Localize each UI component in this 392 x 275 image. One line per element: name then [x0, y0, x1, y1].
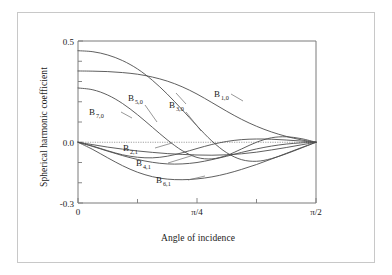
svg-text:B: B [169, 100, 175, 110]
curve-label-b50: B 5,0 [128, 93, 143, 105]
x-axis-ticks [78, 198, 316, 203]
svg-text:B: B [89, 107, 95, 117]
y-axis-ticks [78, 41, 83, 203]
x-tick-label-left: 0 [76, 207, 81, 217]
y-axis-title: Spherical harmonic coefficient [39, 47, 49, 207]
y-tick-label-bottom: -0.3 [60, 199, 75, 209]
y-tick-label-zero: 0.0 [63, 138, 75, 148]
figure-container: 0.5 0.0 -0.3 0 π/4 π/2 [0, 0, 392, 275]
curve-label-b21: B 2,1 [123, 143, 138, 155]
svg-text:B: B [214, 89, 220, 99]
svg-text:2,1: 2,1 [130, 148, 138, 155]
curve-label-b41: B 4,1 [136, 158, 151, 170]
svg-text:B: B [136, 158, 142, 168]
x-tick-label-mid: π/4 [191, 207, 203, 217]
leader-b30-down [186, 112, 201, 131]
curve-label-b61: B 6,1 [156, 175, 171, 187]
leader-b70 [121, 112, 132, 118]
curve-label-b30: B 3,0 [169, 100, 184, 112]
curve-label-b70: B 7,0 [89, 107, 104, 119]
svg-text:B: B [128, 93, 134, 103]
svg-text:B: B [123, 143, 129, 153]
leader-b41 [168, 155, 194, 163]
y-tick-label-top: 0.5 [63, 37, 75, 47]
curve-label-b10: B 1,0 [214, 89, 229, 101]
leader-b50 [145, 105, 157, 122]
curve-labels: B 1,0 B 3,0 B 5,0 B 7,0 B 2,1 [89, 89, 229, 187]
leader-b10 [231, 94, 243, 101]
svg-text:1,0: 1,0 [221, 94, 229, 101]
svg-text:6,1: 6,1 [163, 180, 171, 187]
plot-area: 0.5 0.0 -0.3 0 π/4 π/2 [0, 0, 392, 275]
svg-text:7,0: 7,0 [96, 112, 104, 119]
svg-text:B: B [156, 175, 162, 185]
leader-b21 [155, 143, 172, 148]
x-tick-label-right: π/2 [310, 207, 322, 217]
curve-b10 [78, 71, 316, 142]
svg-text:5,0: 5,0 [135, 98, 143, 105]
leader-b30-up [176, 93, 186, 104]
x-axis-title: Angle of incidence [118, 233, 278, 243]
svg-text:4,1: 4,1 [143, 163, 151, 170]
curve-group [78, 51, 316, 180]
svg-text:3,0: 3,0 [176, 105, 184, 112]
